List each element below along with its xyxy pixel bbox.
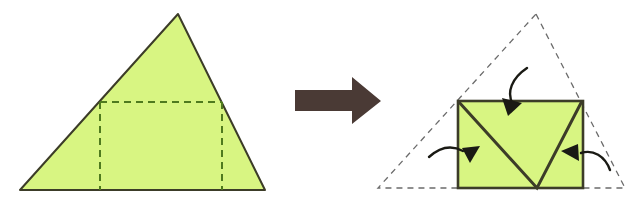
origami-fold-diagram <box>0 0 638 212</box>
transition-arrow-right <box>295 77 381 124</box>
left-panel-group <box>20 14 265 190</box>
fold-arrow-right-shaft <box>581 152 610 170</box>
fold-arrow-top-shaft <box>510 68 527 105</box>
folded-rectangle <box>458 101 583 188</box>
right-panel-group <box>378 14 625 188</box>
diagram-canvas <box>0 0 638 212</box>
